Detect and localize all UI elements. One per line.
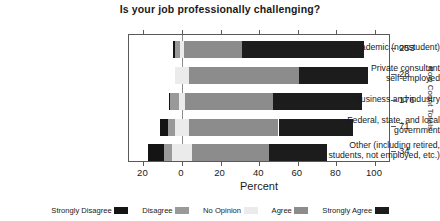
legend-label: Agree (272, 206, 292, 215)
bar-segment (164, 144, 172, 161)
row-total-tick (391, 74, 396, 75)
bar-segment (189, 67, 299, 84)
bar-segment (172, 144, 192, 161)
x-axis-tick (298, 30, 299, 34)
x-axis-tick-label: 20 (205, 167, 235, 178)
category-label: Federal, state, and localgovernment (316, 115, 440, 136)
x-axis-tick-label: 40 (243, 167, 273, 178)
category-label: Academic (nonstudent) (316, 42, 440, 53)
category-label: Private consultantself-employed (316, 63, 440, 84)
x-axis-tick (221, 30, 222, 34)
x-axis-tick (259, 30, 260, 34)
x-axis-tick (143, 30, 144, 34)
legend-swatch (175, 207, 189, 214)
bar-segment (168, 119, 175, 136)
x-axis-tick (182, 30, 183, 34)
x-axis-tick (375, 162, 376, 166)
legend-item[interactable]: Disagree (142, 206, 189, 215)
x-axis-tick-label: 100 (359, 167, 389, 178)
category-label-line: Academic (nonstudent) (316, 42, 440, 53)
x-axis-tick (336, 30, 337, 34)
bar-segment (170, 93, 179, 110)
legend-label: Disagree (142, 206, 172, 215)
x-axis-tick (375, 30, 376, 34)
x-axis-tick-label: 60 (282, 167, 312, 178)
bar-segment (192, 144, 269, 161)
chart-legend: Strongly DisagreeDisagreeNo OpinionAgree… (0, 204, 440, 216)
category-label-line: students, not employed, etc.) (316, 150, 440, 161)
row-count-total: 28 (399, 69, 410, 79)
chart-title: Is your job professionally challenging? (0, 3, 440, 15)
bar-segment (175, 67, 189, 84)
category-label-line: Business and industry (316, 94, 440, 105)
category-label-line: self-employed (316, 73, 440, 84)
x-axis-tick (298, 162, 299, 166)
x-axis-tick (336, 162, 337, 166)
x-axis-tick-label: 80 (320, 167, 350, 178)
category-label-line: Private consultant (316, 63, 440, 74)
category-label: Other (including retired,students, not e… (316, 140, 440, 161)
row-count-total: 253 (399, 43, 415, 53)
x-axis-tick (259, 162, 260, 166)
row-count-total: 34 (399, 146, 410, 156)
legend-label: Strongly Agree (322, 206, 372, 215)
bar-segment (185, 93, 273, 110)
bar-segment (175, 119, 189, 136)
bar-segment (184, 41, 242, 58)
legend-swatch (294, 207, 308, 214)
legend-label: Strongly Disagree (51, 206, 111, 215)
bar-segment (148, 144, 164, 161)
legend-swatch (114, 207, 128, 214)
x-axis-tick-label: 0 (166, 167, 196, 178)
category-label-line: government (316, 125, 440, 136)
x-axis-tick (221, 162, 222, 166)
x-axis-tick-label: 20 (127, 167, 157, 178)
legend-swatch (375, 207, 389, 214)
category-label-line: Other (including retired, (316, 140, 440, 151)
legend-item[interactable]: Agree (272, 206, 309, 215)
legend-label: No Opinion (203, 206, 241, 215)
row-total-tick (391, 151, 396, 152)
x-axis-tick (143, 162, 144, 166)
legend-item[interactable]: Strongly Agree (322, 206, 388, 215)
category-label: Business and industry (316, 94, 440, 105)
bar-segment (160, 119, 168, 136)
legend-swatch (244, 207, 258, 214)
row-count-total: 71 (399, 121, 410, 131)
row-total-tick (391, 48, 396, 49)
bar-segment (189, 119, 279, 136)
x-axis-tick (182, 162, 183, 166)
category-label-line: Federal, state, and local (316, 115, 440, 126)
legend-item[interactable]: Strongly Disagree (51, 206, 128, 215)
x-axis-title: Percent (128, 180, 390, 192)
row-total-tick (391, 126, 396, 127)
legend-item[interactable]: No Opinion (203, 206, 258, 215)
likert-bar-chart: Is your job professionally challenging? … (0, 0, 440, 221)
row-count-total: 176 (399, 95, 415, 105)
row-total-tick (391, 100, 396, 101)
